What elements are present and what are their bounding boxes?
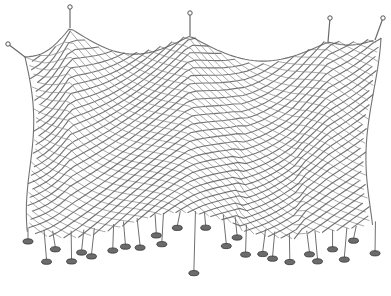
sinker-weight <box>151 233 161 238</box>
sinker-weight <box>304 252 314 257</box>
pin-icon <box>6 42 10 46</box>
net-strand <box>263 229 266 252</box>
net-strand <box>344 228 347 258</box>
mesh-line <box>31 59 234 175</box>
mesh-line <box>39 42 172 136</box>
sinker-weight <box>157 242 167 247</box>
sinker-weight <box>135 245 145 250</box>
net-strand <box>137 218 140 245</box>
sinker-weight <box>77 250 87 255</box>
pin-icon <box>328 16 332 20</box>
net-strand <box>177 211 180 226</box>
sinker-weight <box>67 259 77 264</box>
pin-icon <box>68 5 72 9</box>
sinker-weight <box>285 259 295 264</box>
mesh-line <box>233 148 360 226</box>
net-strand <box>246 225 247 253</box>
sinker-weight <box>50 247 60 252</box>
sinker-weight <box>42 259 52 264</box>
sinker-weight <box>241 252 251 257</box>
net-strand <box>44 230 47 260</box>
sinker-weight <box>86 254 96 259</box>
net-strand <box>315 231 318 259</box>
pin-icon <box>188 11 192 15</box>
mesh-line <box>30 66 320 233</box>
net-mesh <box>25 29 381 238</box>
net-strand <box>194 211 196 271</box>
sinker-weight <box>172 225 182 230</box>
hanging-rope <box>375 18 383 40</box>
sinker-weight <box>189 271 199 276</box>
mesh-line <box>41 53 125 104</box>
pin-icon <box>381 16 385 20</box>
fishing-net-sketch <box>0 0 391 296</box>
hanging-rope <box>8 44 25 57</box>
sinker-weight <box>339 257 349 262</box>
sinker-weight <box>108 248 118 253</box>
sinker-weight <box>349 238 359 243</box>
sinker-weight <box>23 239 33 244</box>
sinker-weight <box>268 256 278 261</box>
mesh-line <box>323 203 363 232</box>
sinker-weight <box>232 235 242 240</box>
net-strand <box>273 232 275 257</box>
sinker-weight <box>328 247 338 252</box>
net-right-edge <box>366 38 381 224</box>
net-strand <box>162 213 164 242</box>
sinker-weight <box>313 259 323 264</box>
net-strand <box>155 214 156 233</box>
sinker-weight <box>120 244 130 249</box>
net-strand <box>354 226 357 239</box>
mesh-line <box>32 47 56 70</box>
sinker-weight <box>258 251 268 256</box>
sinker-weight <box>221 243 231 248</box>
sinker-weight <box>370 251 380 256</box>
net-strand <box>91 228 94 254</box>
net-strand <box>307 231 310 253</box>
net-strand <box>204 212 205 226</box>
sinker-weight <box>201 225 211 230</box>
net-strand <box>113 224 114 249</box>
hanging-rope <box>328 18 330 42</box>
